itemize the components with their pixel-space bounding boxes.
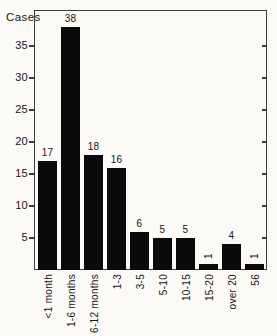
bar	[38, 161, 57, 270]
bar-value-label: 18	[83, 141, 105, 153]
bar	[176, 238, 195, 270]
x-tick-label-text: over 20	[226, 274, 237, 309]
x-tick-label-text: 56	[249, 274, 260, 286]
bar-value-label: 1	[203, 245, 215, 267]
y-tick-label: 15	[0, 167, 28, 180]
bar	[61, 27, 80, 270]
x-tick-label: 15-20	[203, 274, 214, 301]
x-tick-label-text: 15-20	[203, 274, 214, 301]
x-tick-label: 10-15	[180, 274, 191, 301]
y-tick-mark-right	[262, 237, 267, 239]
bar-value-label: 5	[152, 224, 174, 236]
y-tick-mark-left	[29, 205, 34, 207]
y-tick-mark-left	[29, 237, 34, 239]
y-tick-label: 5	[0, 231, 28, 244]
y-tick-mark-right	[262, 77, 267, 79]
bar-value-label: 5	[175, 224, 197, 236]
y-tick-mark-left	[29, 109, 34, 111]
bar-chart-figure: Cases 17<1 month381-6 months186-12 month…	[0, 0, 277, 336]
x-tick-label-text: 3-5	[134, 274, 145, 289]
bar	[107, 168, 126, 270]
y-tick-mark-left	[29, 173, 34, 175]
bar-value-label: 6	[129, 218, 151, 230]
bar-value-label: 17	[37, 147, 59, 159]
bar	[222, 244, 241, 270]
x-tick-label: 1-6 months	[65, 274, 76, 327]
x-tick-label-text: 10-15	[180, 274, 191, 301]
y-tick-mark-left	[29, 45, 34, 47]
y-tick-label: 20	[0, 135, 28, 148]
x-tick-label-text: 1-3	[111, 274, 122, 289]
x-tick-label: 56	[249, 274, 260, 286]
bar	[153, 238, 172, 270]
x-tick-label: over 20	[226, 274, 237, 309]
bar-value-label: 38	[60, 13, 82, 25]
bar-value-label: 1	[249, 245, 261, 267]
x-tick-label-text: 1-6 months	[65, 274, 76, 327]
y-tick-mark-right	[262, 109, 267, 111]
x-tick-label: 3-5	[134, 274, 145, 289]
y-tick-label: 25	[0, 103, 28, 116]
bar	[84, 155, 103, 270]
x-tick-label: 6-12 months	[88, 274, 99, 333]
x-tick-label: 5-10	[157, 274, 168, 295]
x-tick-label: <1 month	[42, 274, 53, 318]
y-tick-mark-right	[262, 45, 267, 47]
y-tick-mark-left	[29, 141, 34, 143]
x-tick-label: 1-3	[111, 274, 122, 289]
y-tick-mark-right	[262, 173, 267, 175]
bar-value-label: 4	[221, 230, 243, 242]
x-tick-label-text: <1 month	[42, 274, 53, 318]
y-tick-label: 10	[0, 199, 28, 212]
x-tick-label-text: 5-10	[157, 274, 168, 295]
y-tick-label: 30	[0, 71, 28, 84]
x-tick-label-text: 6-12 months	[88, 274, 99, 333]
y-tick-label: 35	[0, 39, 28, 52]
y-tick-mark-right	[262, 205, 267, 207]
y-tick-mark-right	[262, 141, 267, 143]
bar	[130, 232, 149, 270]
bar-value-label: 16	[106, 154, 128, 166]
y-tick-mark-left	[29, 77, 34, 79]
